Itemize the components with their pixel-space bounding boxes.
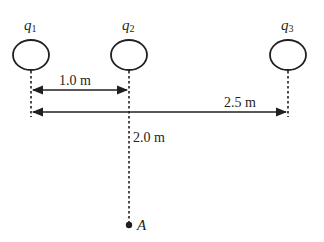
distance-label-q1-q3: 2.5 m <box>224 95 256 110</box>
charge-q1-label: q1 <box>24 17 37 34</box>
charge-q2-circle <box>111 40 147 70</box>
charge-q3: q3 <box>270 17 306 117</box>
charge-diagram: q1 q2 q3 1.0 m 2.5 m 2.0 m A <box>0 0 324 242</box>
charge-q2-label: q2 <box>122 17 135 34</box>
point-A-dot <box>126 222 132 228</box>
dimension-q1-q3: 2.5 m <box>33 95 286 112</box>
charge-q1: q1 <box>13 17 49 117</box>
distance-label-q1-q2: 1.0 m <box>59 73 91 88</box>
distance-label-q2-A: 2.0 m <box>133 130 165 145</box>
dimension-q1-q2: 1.0 m <box>33 73 127 90</box>
charge-q3-circle <box>270 40 306 70</box>
point-A-label: A <box>136 217 147 233</box>
charge-q1-circle <box>13 40 49 70</box>
point-A: A <box>126 217 147 233</box>
charge-q2: q2 <box>111 17 147 224</box>
charge-q3-label: q3 <box>281 17 294 34</box>
